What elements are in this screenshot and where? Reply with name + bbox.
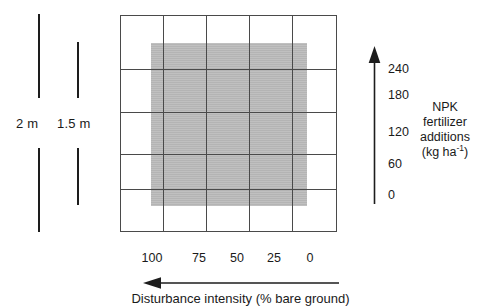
plot-grid <box>120 15 337 232</box>
experimental-design-figure: 2 m 1.5 m 100 75 50 25 0 Disturbance int… <box>0 0 481 308</box>
grid-line-horizontal <box>121 69 336 70</box>
shaded-sampling-area <box>151 43 307 206</box>
y-axis-units-suffix: ) <box>464 145 468 159</box>
inner-plot-size-label: 1.5 m <box>57 116 91 131</box>
y-axis-caption-line: additions <box>409 130 481 145</box>
grid-line-vertical <box>292 16 293 231</box>
x-tick-label: 100 <box>142 251 163 265</box>
x-axis-arrow-icon <box>143 277 339 289</box>
y-axis-caption: NPK fertilizer additions (kg ha-1) <box>409 100 481 160</box>
y-tick-label: 240 <box>388 62 409 76</box>
outer-scale-bar-lower <box>38 148 40 232</box>
y-axis-caption-line: NPK <box>409 100 481 115</box>
y-axis-units-prefix: (kg ha <box>422 145 457 159</box>
y-tick-label: 60 <box>388 157 402 171</box>
outer-plot-size-label: 2 m <box>16 116 38 131</box>
x-tick-label: 75 <box>192 251 206 265</box>
inner-scale-bar-lower <box>77 148 79 205</box>
y-tick-label: 120 <box>388 125 409 139</box>
x-tick-label: 0 <box>307 251 314 265</box>
x-axis-caption: Disturbance intensity (% bare ground) <box>0 291 481 306</box>
y-axis-caption-line: fertilizer <box>409 115 481 130</box>
grid-line-horizontal <box>121 112 336 113</box>
y-axis-arrow-icon <box>368 46 381 204</box>
grid-line-horizontal <box>121 154 336 155</box>
outer-scale-bar-upper <box>38 14 40 98</box>
y-axis-units: (kg ha-1) <box>409 145 481 160</box>
y-tick-label: 180 <box>388 88 409 102</box>
grid-line-vertical <box>249 16 250 231</box>
y-axis-units-exponent: -1 <box>457 143 465 153</box>
grid-line-vertical <box>163 16 164 231</box>
grid-line-horizontal <box>121 189 336 190</box>
x-tick-label: 50 <box>230 251 244 265</box>
y-tick-label: 0 <box>388 188 395 202</box>
inner-scale-bar-upper <box>77 42 79 98</box>
x-tick-label: 25 <box>267 251 281 265</box>
grid-line-vertical <box>206 16 207 231</box>
